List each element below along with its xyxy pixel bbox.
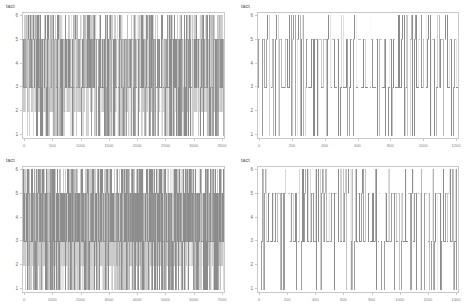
y-axis-tick [20, 288, 22, 289]
x-axis-tick [259, 293, 260, 295]
x-axis-tick [137, 293, 138, 295]
trace-canvas [23, 167, 224, 292]
y-axis-tick [20, 110, 22, 111]
y-axis-tick [255, 134, 257, 135]
x-axis-tick-label: 3500 [218, 143, 227, 148]
x-axis-tick-label: 800 [368, 297, 375, 302]
y-axis-tick-label: 1 [8, 286, 18, 291]
y-axis-tick-label: 4 [8, 60, 18, 65]
panel-title: tact [241, 3, 250, 9]
y-axis-tick-label: 3 [243, 238, 253, 243]
x-axis-tick [109, 139, 110, 141]
x-axis-tick-label: 0 [258, 143, 260, 148]
x-axis-tick-label: 1400 [452, 297, 461, 302]
y-axis-tick-label: 2 [8, 108, 18, 113]
plot-area [258, 167, 458, 292]
y-axis-tick [255, 63, 257, 64]
x-axis-tick-label: 3000 [104, 297, 113, 302]
x-axis-tick-label: 6000 [189, 297, 198, 302]
y-axis-tick [20, 134, 22, 135]
x-axis-tick [315, 293, 316, 295]
panel-top-left: tact 6543210500100015002000250030003500 [0, 0, 235, 154]
x-axis-tick [24, 139, 25, 141]
y-axis-tick [255, 86, 257, 87]
x-axis-tick [52, 139, 53, 141]
y-axis-tick [20, 264, 22, 265]
x-axis-tick [343, 293, 344, 295]
y-axis-tick-label: 2 [243, 262, 253, 267]
panel-top-right: tact 654321020040060080010001200 [235, 0, 469, 154]
y-axis-tick-label: 4 [243, 214, 253, 219]
trace-canvas [258, 13, 458, 138]
y-axis-tick [255, 264, 257, 265]
x-axis-tick [109, 293, 110, 295]
y-axis-tick-label: 2 [243, 108, 253, 113]
y-axis-tick-label: 1 [8, 132, 18, 137]
x-axis-tick-label: 1000 [395, 297, 404, 302]
x-axis-tick-label: 4000 [133, 297, 142, 302]
y-axis-tick [255, 15, 257, 16]
y-axis-tick [255, 39, 257, 40]
plot-area [258, 13, 458, 138]
y-axis-tick [20, 86, 22, 87]
y-axis-tick [255, 217, 257, 218]
x-axis-tick-label: 2000 [76, 297, 85, 302]
x-axis-tick [81, 293, 82, 295]
x-axis-tick-label: 500 [49, 143, 56, 148]
y-axis-tick-label: 6 [243, 13, 253, 18]
y-axis-tick [20, 193, 22, 194]
y-axis-tick [255, 193, 257, 194]
figure-grid: tact 6543210500100015002000250030003500 … [0, 0, 469, 308]
panel-title: tact [6, 157, 15, 163]
x-axis-tick [137, 139, 138, 141]
x-axis-tick [52, 293, 53, 295]
x-axis-tick [428, 293, 429, 295]
x-axis-tick [358, 139, 359, 141]
y-axis-tick [20, 63, 22, 64]
x-axis-tick [24, 293, 25, 295]
x-axis-tick [222, 293, 223, 295]
y-axis-tick-label: 6 [243, 167, 253, 172]
panel-bottom-right: tact 6543210200400600800100012001400 [235, 154, 469, 308]
y-axis-tick-label: 5 [8, 36, 18, 41]
y-axis-tick-label: 4 [8, 214, 18, 219]
x-axis-tick [292, 139, 293, 141]
x-axis-tick [165, 293, 166, 295]
y-axis-tick [255, 288, 257, 289]
y-axis-tick [20, 217, 22, 218]
y-axis-tick [255, 110, 257, 111]
x-axis-tick-label: 200 [288, 143, 295, 148]
x-axis-tick-label: 1200 [452, 143, 461, 148]
x-axis-tick [423, 139, 424, 141]
y-axis-tick-label: 5 [243, 190, 253, 195]
x-axis-tick [194, 293, 195, 295]
x-axis-tick-label: 800 [387, 143, 394, 148]
x-axis-tick [456, 139, 457, 141]
y-axis-tick [20, 240, 22, 241]
panel-title: tact [6, 3, 15, 9]
x-axis-tick [287, 293, 288, 295]
y-axis-tick [20, 15, 22, 16]
y-axis-tick-label: 4 [243, 60, 253, 65]
y-axis-tick-label: 3 [8, 84, 18, 89]
x-axis-tick-label: 200 [284, 297, 291, 302]
x-axis-tick [81, 139, 82, 141]
x-axis-tick-label: 0 [23, 143, 25, 148]
x-axis-tick-label: 0 [23, 297, 25, 302]
panel-bottom-left: tact 65432101000200030004000500060007000 [0, 154, 235, 308]
x-axis-tick [456, 293, 457, 295]
trace-canvas [23, 13, 224, 138]
y-axis-tick-label: 3 [8, 238, 18, 243]
x-axis-tick-label: 600 [354, 143, 361, 148]
x-axis-tick [165, 139, 166, 141]
plot-area [23, 13, 224, 138]
x-axis-tick-label: 1000 [76, 143, 85, 148]
x-axis-tick-label: 600 [340, 297, 347, 302]
y-axis-tick [255, 169, 257, 170]
y-axis-tick [20, 39, 22, 40]
x-axis-tick-label: 2500 [161, 143, 170, 148]
y-axis-tick [255, 240, 257, 241]
x-axis-tick-label: 1500 [104, 143, 113, 148]
y-axis-tick-label: 3 [243, 84, 253, 89]
y-axis-tick-label: 5 [243, 36, 253, 41]
